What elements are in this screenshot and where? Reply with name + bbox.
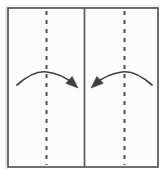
paper-sheet xyxy=(8,8,158,167)
diagram-canvas xyxy=(0,0,166,179)
paper-fold-diagram xyxy=(0,0,166,179)
